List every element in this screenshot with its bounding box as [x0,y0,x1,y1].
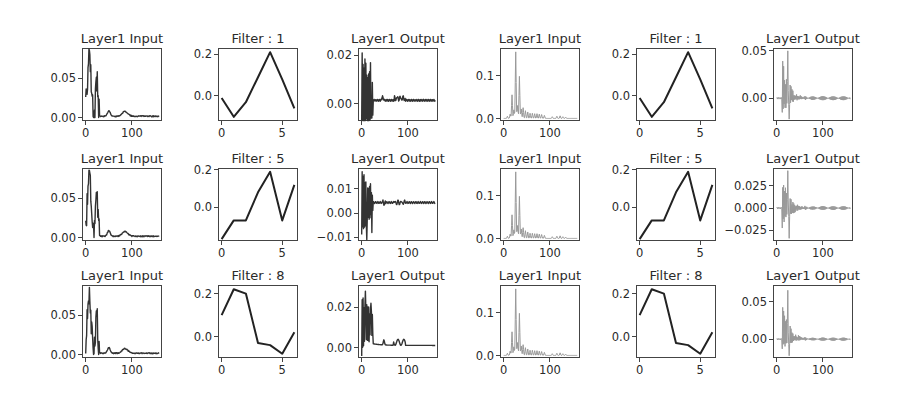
ytick-mark [769,301,773,302]
ytick-mark [78,198,82,199]
xtick-label: 100 [808,364,838,376]
plot-line-area [358,168,438,241]
xtick-mark [776,241,777,245]
plot-line-area [358,48,438,121]
xtick-mark [407,358,408,362]
xtick-mark [700,241,701,245]
xtick-mark [639,358,640,362]
xtick-label: 100 [117,247,147,259]
xtick-mark [549,241,550,245]
subplot-r2-c2: Filter : 50.00.205 [218,168,298,241]
plot-line-area [500,285,580,358]
subplot-r3-c6: Layer1 Output0.000.050100 [773,285,853,358]
plot-line-area [773,48,853,121]
ytick-label: 0.0 [476,233,494,245]
ytick-label: 0.1 [476,190,494,202]
subplot-r1-c5: Filter : 10.00.205 [636,48,716,121]
xtick-mark [503,121,504,125]
ytick-label: 0.01 [326,183,352,195]
xtick-label: 100 [535,364,565,376]
xtick-mark [131,358,132,362]
xtick-label: 5 [267,127,297,139]
ytick-label: 0.2 [612,288,630,300]
plot-line-area [218,48,298,121]
ytick-mark [632,95,636,96]
subplot-title: Layer1 Output [328,31,468,46]
ytick-mark [769,50,773,51]
plot-line-area [218,285,298,358]
ytick-mark [354,307,358,308]
xtick-label: 100 [808,127,838,139]
ytick-label: 0.00 [50,112,76,124]
ytick-label: 0.00 [326,207,352,219]
xtick-label: 0 [625,364,655,376]
plot-line-area [218,168,298,241]
plot-line-area [82,168,162,241]
xtick-mark [407,121,408,125]
plot-line-area [82,285,162,358]
ytick-label: 0.0 [612,90,630,102]
subplot-r3-c4: Layer1 Input0.00.10100 [500,285,580,358]
xtick-mark [503,241,504,245]
ytick-mark [496,238,500,239]
ytick-label: 0.05 [741,296,767,308]
ytick-label: 0.0 [612,201,630,213]
ytick-label: 0.00 [50,349,76,361]
series-line [777,290,851,355]
ytick-mark [632,336,636,337]
ytick-mark [769,339,773,340]
ytick-label: 0.00 [50,232,76,244]
series-line [222,172,295,239]
xtick-label: 0 [71,127,101,139]
plot-line-area [636,285,716,358]
xtick-mark [822,241,823,245]
ytick-mark [632,54,636,55]
subplot-title: Layer1 Output [328,268,468,283]
subplot-title: Layer1 Input [470,31,610,46]
xtick-label: 0 [625,127,655,139]
xtick-label: 5 [685,364,715,376]
subplot-r3-c3: Layer1 Output0.000.020100 [358,285,438,358]
series-line [362,172,436,240]
series-line [86,49,160,118]
series-line [86,170,160,237]
xtick-label: 5 [267,247,297,259]
ytick-mark [354,237,358,238]
series-line [777,171,851,239]
ytick-label: −0.01 [317,231,352,243]
ytick-mark [78,78,82,79]
ytick-label: 0.00 [326,342,352,354]
ytick-label: −0.025 [724,224,767,236]
xtick-label: 100 [808,247,838,259]
ytick-mark [354,213,358,214]
series-line [640,172,713,239]
xtick-mark [131,121,132,125]
xtick-label: 0 [625,247,655,259]
ytick-mark [78,354,82,355]
xtick-label: 0 [207,127,237,139]
ytick-label: 0.05 [50,192,76,204]
ytick-mark [354,55,358,56]
subplot-title: Layer1 Input [52,31,192,46]
xtick-mark [361,121,362,125]
ytick-label: 0.0 [194,331,212,343]
series-line [362,291,436,356]
subplot-title: Layer1 Output [328,151,468,166]
subplot-r2-c4: Layer1 Input0.00.10100 [500,168,580,241]
xtick-mark [282,121,283,125]
plot-line-area [358,285,438,358]
ytick-label: 0.00 [741,92,767,104]
subplot-r1-c1: Layer1 Input0.000.050100 [82,48,162,121]
ytick-label: 0.0 [612,331,630,343]
xtick-mark [776,121,777,125]
series-line [222,52,295,117]
ytick-label: 0.05 [50,309,76,321]
ytick-mark [78,117,82,118]
subplot-r3-c2: Filter : 80.00.205 [218,285,298,358]
xtick-label: 100 [117,364,147,376]
ytick-mark [769,185,773,186]
ytick-mark [354,347,358,348]
xtick-label: 100 [535,247,565,259]
xtick-mark [503,358,504,362]
xtick-mark [822,358,823,362]
